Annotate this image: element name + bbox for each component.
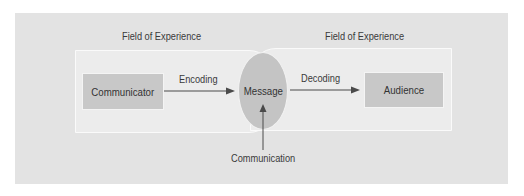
- arrows-layer: [0, 0, 524, 196]
- encoding-arrowhead-icon: [226, 88, 235, 95]
- encoding-label: Encoding: [179, 73, 218, 85]
- communication-arrowhead-icon: [260, 104, 267, 112]
- decoding-arrowhead-icon: [351, 87, 360, 94]
- communication-label: Communication: [231, 152, 295, 164]
- decoding-label: Decoding: [301, 72, 340, 84]
